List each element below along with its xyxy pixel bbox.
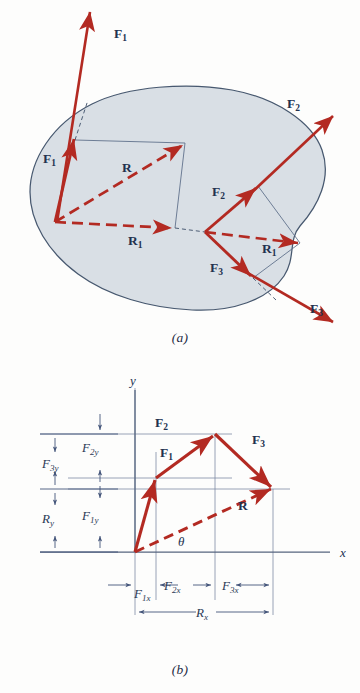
dimension-label-f2x: F2x [163, 578, 180, 595]
label-f3-external: F3 [310, 301, 323, 318]
dimension-label-f3x: F3x [221, 578, 238, 595]
label-r-b: R [238, 498, 248, 513]
dimension-label-f1y: F1y [81, 508, 98, 525]
label-f1-external: F1 [114, 26, 127, 43]
axis-x-label: x [339, 545, 346, 560]
dimension-label-ry: Ry [41, 511, 54, 528]
vector-r-resultant-b [135, 489, 271, 552]
label-f2-external: F2 [287, 96, 300, 113]
dimension-label-rx: Rx [195, 605, 208, 622]
dimension-label-f3y: F3y [41, 456, 58, 473]
dimension-lines-y [40, 414, 118, 552]
panel-b: x y F1 F2 F3 R θ [40, 373, 346, 622]
axis-y-label: y [128, 373, 136, 388]
label-f2-b: F2 [155, 415, 168, 432]
panel-a: F1 F1 R R1 F2 F2 R1 F3 F [30, 12, 333, 322]
label-f3-b: F3 [252, 432, 265, 449]
label-f1-b: F1 [160, 445, 173, 462]
vector-f1 [135, 480, 155, 552]
dimension-label-f2y: F2y [81, 440, 98, 457]
figure-root: F1 F1 R R1 F2 F2 R1 F3 F [0, 0, 360, 693]
dimension-lines-x [108, 585, 269, 612]
caption-panel-b: (b) [0, 662, 360, 678]
vector-addition-figure: F1 F1 R R1 F2 F2 R1 F3 F [0, 0, 360, 693]
label-r-resultant: R [122, 160, 132, 175]
caption-panel-a: (a) [0, 330, 360, 346]
label-theta: θ [178, 534, 185, 549]
dimension-label-f1x: F1x [133, 586, 150, 603]
